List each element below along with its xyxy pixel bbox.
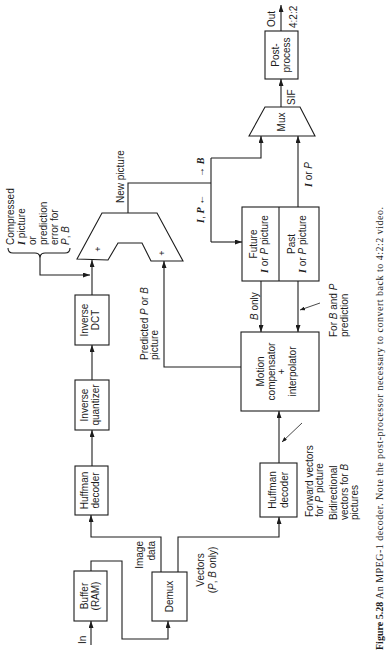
vectors-label-2: (P, B only): [207, 547, 218, 594]
forward-vectors-label-2: for P picture: [314, 463, 325, 517]
past-label-1: Past: [286, 234, 297, 254]
reorder-label-left: I, P ←: [195, 195, 206, 224]
mux-label: Mux: [276, 113, 287, 132]
compressed-label-1: Compressed: [5, 188, 16, 245]
huffman-image-label-2: decoder: [90, 472, 101, 509]
huffman-vectors-label-1: Huffman: [267, 471, 278, 509]
for-b-and-p-label-2: prediction: [339, 294, 350, 337]
figure-page: Buffer (RAM) Demux Huffman decoder Inver…: [0, 0, 391, 661]
figure-number: Figure 5.28: [374, 602, 385, 650]
bidirectional-vectors-label-1: Bidirectional: [328, 466, 339, 520]
predicted-to-adder-arrow: [164, 261, 241, 367]
for-b-and-p-label-1: For B and P: [328, 283, 339, 337]
reorder-label-right: → B: [195, 157, 206, 177]
demux-label: Demux: [164, 581, 175, 613]
mc-label-3: +: [276, 368, 287, 374]
compressed-label-5: error for: [49, 209, 60, 245]
adder-plus-left: +: [93, 246, 103, 251]
figure-caption: An MPEG-1 decoder. Note the post-process…: [374, 207, 385, 599]
adder-plus-right: +: [157, 250, 167, 255]
mc-label-4: interpolator: [287, 346, 298, 397]
vectors-label-1: Vectors: [195, 553, 206, 586]
input-label: In: [77, 636, 88, 644]
adder-block: [77, 213, 183, 261]
mc-label-1: Motion: [255, 356, 266, 386]
buffer-label-1: Buffer: [79, 582, 90, 609]
buffer-label-2: (RAM): [90, 582, 101, 611]
b-only-label: B only: [249, 292, 260, 320]
image-data-label-2: data: [146, 541, 157, 561]
idct-label-1: Inverse: [79, 303, 90, 336]
brace-icon: [8, 248, 70, 258]
vectors-arrow: [178, 517, 279, 572]
sif-label: SIF: [286, 89, 297, 105]
compressed-label-3: or: [27, 235, 38, 245]
compressed-label-4: prediction: [38, 202, 49, 245]
compressed-label-2: I picture: [16, 208, 27, 246]
future-label-2: I or P picture: [259, 215, 270, 274]
b-to-mux-arrow: [211, 136, 261, 158]
predicted-label-2: picture: [149, 330, 160, 360]
huffman-image-label-1: Huffman: [79, 472, 90, 510]
output-format-label: 4:2:2: [288, 5, 299, 28]
output-label: Out: [266, 11, 277, 27]
i-or-p-label: I or P: [303, 162, 314, 188]
bidirectional-vectors-label-3: pictures: [349, 485, 360, 520]
prediction-pointer: [300, 303, 320, 310]
rotated-figure: Buffer (RAM) Demux Huffman decoder Inver…: [5, 5, 385, 650]
iq-label-1: Inverse: [79, 388, 90, 421]
forward-vectors-pointer: [282, 423, 302, 442]
huffman-vectors-label-2: decoder: [279, 471, 290, 508]
image-data-label-1: Image: [134, 541, 145, 569]
mpeg1-decoder-diagram: Buffer (RAM) Demux Huffman decoder Inver…: [0, 0, 391, 661]
compressed-pointer-arrow: [40, 258, 90, 275]
new-picture-label: New picture: [115, 150, 126, 203]
past-label-2: I or P picture: [297, 215, 308, 274]
iq-label-2: quantizer: [90, 384, 101, 426]
postprocess-label-1: Post-: [270, 43, 281, 66]
compressed-label-6: P, B: [60, 226, 71, 245]
future-label-1: Future: [248, 229, 259, 258]
postprocess-label-2: process: [281, 37, 292, 72]
idct-label-2: DCT: [90, 310, 101, 331]
